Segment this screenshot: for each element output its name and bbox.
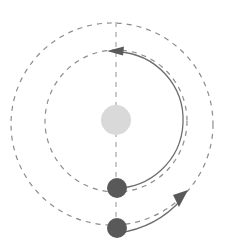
outer-orbit-direction-arrowhead-icon [173, 190, 188, 207]
star-body [101, 105, 131, 135]
orbital-diagram-canvas [0, 0, 230, 247]
outer-solid-direction-arc [118, 199, 182, 233]
outer-planet-body [107, 218, 127, 238]
inner-planet-body [107, 178, 127, 198]
orbital-diagram [0, 0, 230, 247]
